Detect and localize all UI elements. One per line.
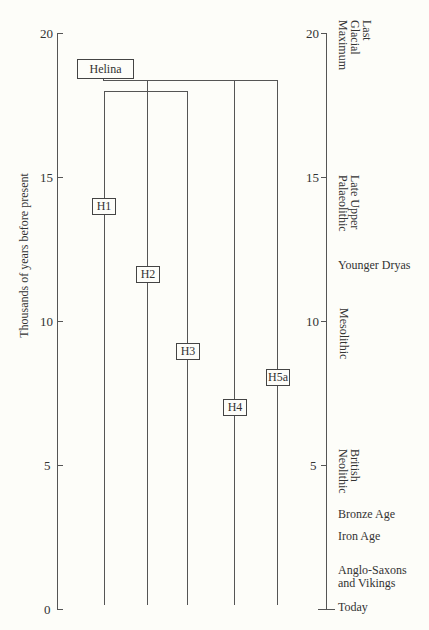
branch-top-horizontal [103, 80, 278, 81]
left-tick-label-0: 0 [44, 603, 51, 616]
period-mesolithic: Mesolithic [338, 308, 350, 359]
period-late-upper-palaeolithic: Late Upper Palaeolithic [337, 175, 361, 232]
lineage-h1 [104, 91, 105, 605]
right-tick-20 [321, 33, 326, 34]
right-tick-label-10: 10 [306, 315, 319, 328]
right-tick-label-15: 15 [306, 171, 319, 184]
period-today: Today [338, 601, 368, 614]
right-tick-label-5: 5 [310, 459, 317, 472]
left-tick-label-5: 5 [44, 459, 51, 472]
right-tick-10 [321, 321, 326, 322]
right-tick-0 [318, 609, 335, 610]
left-tick-5 [57, 465, 63, 466]
left-tick-10 [57, 321, 63, 322]
period-bronze-age: Bronze Age [338, 508, 395, 521]
right-tick-5 [321, 465, 326, 466]
left-tick-label-20: 20 [40, 27, 53, 40]
node-h2: H2 [136, 266, 160, 283]
left-tick-20 [57, 33, 63, 34]
right-tick-15 [321, 177, 326, 178]
node-h4: H4 [223, 399, 247, 416]
lineage-h4 [234, 80, 235, 605]
node-h3: H3 [176, 343, 200, 360]
period-iron-age: Iron Age [338, 530, 380, 543]
branch-second-horizontal [104, 91, 188, 92]
left-tick-0 [57, 609, 63, 610]
period-british-neolithic: British Neolithic [337, 449, 361, 494]
right-tick-label-20: 20 [306, 27, 319, 40]
node-h5a: H5a [266, 369, 290, 386]
left-tick-15 [57, 177, 63, 178]
node-helina: Helina [77, 59, 134, 79]
period-anglo-saxons-vikings: Anglo-Saxons and Vikings [338, 564, 407, 590]
left-tick-label-10: 10 [40, 315, 53, 328]
period-younger-dryas: Younger Dryas [338, 259, 410, 272]
period-last-glacial-maximum: Last Glacial Maximum [337, 20, 373, 70]
left-tick-label-15: 15 [40, 171, 53, 184]
node-h1: H1 [92, 198, 116, 215]
lineage-h5a [277, 80, 278, 605]
left-axis-title: Thousands of years before present [17, 156, 32, 356]
right-axis-line [326, 33, 327, 610]
lineage-h2 [147, 80, 148, 605]
